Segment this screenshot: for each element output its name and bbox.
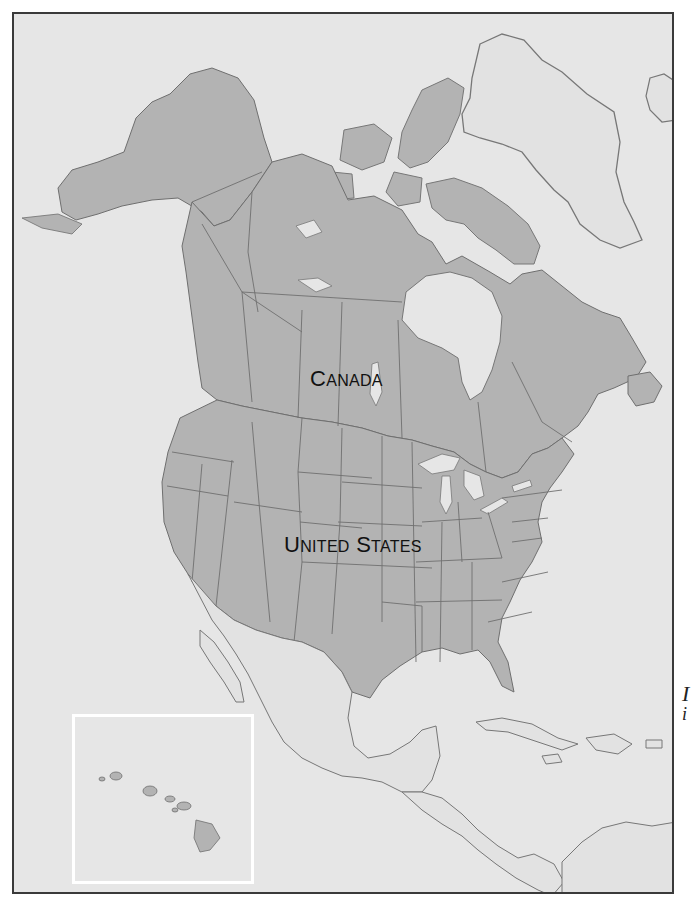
iceland-outline [646, 74, 674, 122]
cropped-text-line-2: i [682, 704, 689, 724]
hawaii-inset-frame [72, 714, 254, 884]
united-states-label: UNITED STATES [284, 532, 422, 558]
arctic-island-2 [386, 172, 422, 206]
canada-label: CANADA [310, 366, 383, 392]
central-america-outline [402, 792, 564, 894]
us-label-word2-initial: S [356, 532, 371, 557]
hispaniola [586, 734, 632, 754]
newfoundland [628, 372, 662, 406]
baffin-island [426, 178, 540, 264]
south-america-outline [562, 822, 674, 894]
canada-label-initial: C [310, 366, 326, 391]
cropped-text-line-1: I [682, 684, 689, 704]
cuba [476, 718, 578, 750]
map-frame: CANADA UNITED STATES [12, 12, 674, 894]
puerto-rico [646, 740, 662, 748]
us-label-word1-initial: U [284, 532, 300, 557]
cropped-side-text: I i [682, 684, 689, 724]
jamaica [542, 754, 562, 764]
us-label-word1-rest: NITED [300, 538, 350, 555]
alaska [58, 68, 272, 226]
canada-label-rest: ANADA [326, 372, 383, 389]
arctic-island-1 [340, 124, 392, 170]
us-label-word2-rest: TATES [371, 538, 422, 555]
ellesmere-outline [398, 78, 464, 168]
